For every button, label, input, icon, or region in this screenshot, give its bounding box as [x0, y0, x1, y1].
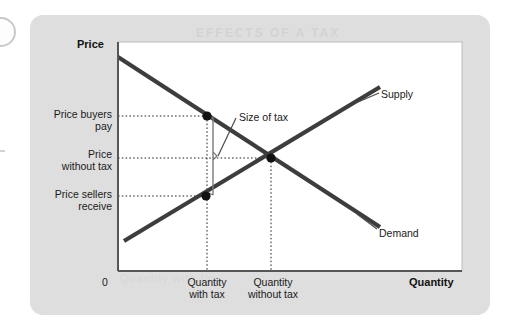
point-price-buyers-pay — [202, 111, 211, 120]
x-tick-quantity-without-tax-line2: without tax — [230, 288, 316, 300]
y-tick-price-sellers-receive-line1: Price sellers — [24, 188, 112, 200]
x-tick-quantity-without-tax-line1: Quantity — [230, 276, 316, 288]
supply-curve-label: Supply — [381, 88, 413, 100]
y-tick-price-sellers-receive-line2: receive — [24, 200, 112, 212]
point-price-sellers-receive — [201, 191, 210, 200]
y-tick-price-without-tax: Price without tax — [24, 148, 112, 172]
y-tick-price-buyers-pay-line1: Price buyers — [24, 108, 112, 120]
y-axis-title: Price — [77, 38, 104, 50]
size-of-tax-brace — [209, 117, 217, 195]
y-tick-price-sellers-receive: Price sellers receive — [24, 188, 112, 212]
point-equilibrium-price-without-tax — [266, 153, 275, 162]
y-tick-price-without-tax-line1: Price — [24, 148, 112, 160]
figure-page: EFFECTS OF A TAX Quantity with tax — [0, 0, 522, 333]
y-tick-price-without-tax-line2: without tax — [24, 160, 112, 172]
y-tick-price-buyers-pay-line2: pay — [24, 120, 112, 132]
x-tick-origin: 0 — [98, 276, 112, 288]
demand-curve — [118, 57, 380, 227]
x-tick-quantity-without-tax: Quantity without tax — [230, 276, 316, 300]
demand-curve-label: Demand — [379, 227, 419, 239]
y-tick-price-buyers-pay: Price buyers pay — [24, 108, 112, 132]
size-of-tax-annotation-label: Size of tax — [239, 111, 288, 123]
x-axis-title: Quantity — [409, 276, 454, 288]
